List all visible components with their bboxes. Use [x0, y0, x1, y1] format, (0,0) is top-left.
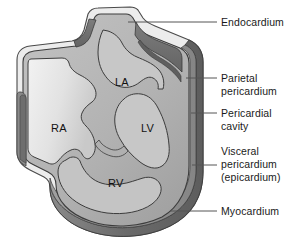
- chamber-label-left-ventricle: LV: [141, 122, 154, 134]
- vena-cava-opening: [17, 92, 26, 166]
- heart-cross-section-figure: LARALVRV EndocardiumParietalpericardiumP…: [0, 0, 306, 244]
- callout-pericardial-cavity-line: Pericardial: [221, 107, 272, 120]
- callout-myocardium-line: Myocardium: [221, 205, 279, 218]
- callout-endocardium-line: Endocardium: [221, 16, 284, 29]
- callout-parietal-pericardium-line: Parietal: [221, 72, 277, 85]
- callout-parietal-pericardium-line: pericardium: [221, 85, 277, 98]
- chamber-label-left-atrium: LA: [115, 76, 129, 88]
- callout-pericardial-cavity-line: cavity: [221, 120, 272, 133]
- callout-visceral-pericardium: Visceralpericardium(epicardium): [221, 145, 281, 184]
- chamber-label-right-atrium: RA: [51, 122, 67, 134]
- callout-endocardium: Endocardium: [221, 16, 284, 29]
- callout-visceral-pericardium-line: pericardium: [221, 158, 281, 171]
- callout-parietal-pericardium: Parietalpericardium: [221, 72, 277, 98]
- chamber-label-right-ventricle: RV: [108, 177, 123, 189]
- callout-visceral-pericardium-line: (epicardium): [221, 171, 281, 184]
- callout-myocardium: Myocardium: [221, 205, 279, 218]
- callout-visceral-pericardium-line: Visceral: [221, 145, 281, 158]
- callout-pericardial-cavity: Pericardialcavity: [221, 107, 272, 133]
